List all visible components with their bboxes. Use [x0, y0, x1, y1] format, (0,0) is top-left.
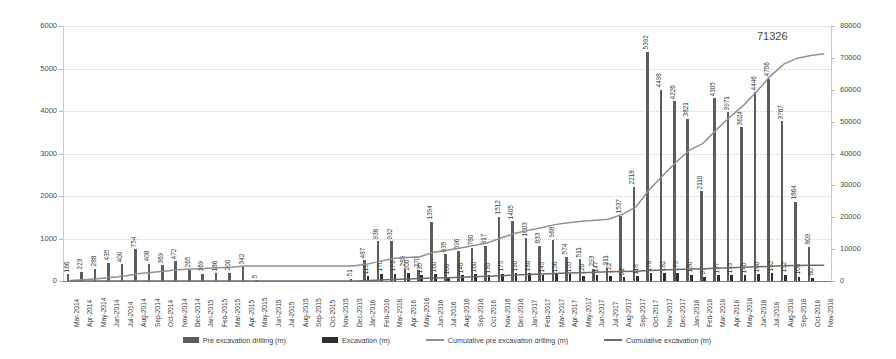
- x-axis-tick-label: Jan-2017: [531, 300, 538, 328]
- y-axis-left-tick-label: 4000: [40, 107, 57, 115]
- y-axis-right-tickmark: [831, 281, 835, 282]
- x-axis-tick-label: Jul-2017: [612, 302, 619, 327]
- x-axis-tick-label: Dec-2015: [356, 298, 363, 327]
- y-axis-left-tickmark: [59, 239, 63, 240]
- x-axis-tick-label: Apr-2016: [410, 300, 417, 327]
- y-axis-right-tick-label: 10000: [840, 245, 861, 253]
- y-axis-right-tickmark: [831, 122, 835, 123]
- line-series-group: [63, 26, 831, 281]
- x-axis-tick-label: Sep-2015: [315, 298, 322, 327]
- line-cumulative-excavation: [70, 265, 825, 281]
- x-axis-tick-label: Feb-2018: [706, 299, 713, 327]
- x-axis-tick-label: Oct-2018: [814, 300, 821, 327]
- x-axis-tick-label: Dec-2017: [679, 298, 686, 327]
- y-axis-left-tickmark: [59, 26, 63, 27]
- x-axis-tick-label: Jun-2018: [760, 300, 767, 328]
- x-axis-tick-label: Jan-2015: [207, 300, 214, 328]
- x-axis-tick-label: Aug-2016: [463, 298, 470, 327]
- y-axis-left-tick-label: 3000: [40, 150, 57, 158]
- y-axis-right-tick-label: 0: [840, 277, 844, 285]
- legend-line-swatch-icon: [426, 339, 444, 341]
- x-axis-tick-label: Sep-2018: [800, 298, 807, 327]
- y-axis-right-tickmark: [831, 90, 835, 91]
- legend-label: Pre excavation drilling (m): [203, 336, 286, 345]
- x-axis-tick-label: Mar-2017: [558, 299, 565, 327]
- x-axis-tick-label: Mar-2014: [73, 299, 80, 327]
- legend-item[interactable]: Cumulative excavation (m): [604, 336, 711, 345]
- legend-item[interactable]: Cumulative pre excavation drilling (m): [426, 336, 568, 345]
- y-axis-left-tickmark: [59, 196, 63, 197]
- y-axis-left-tick-label: 6000: [40, 22, 57, 30]
- x-axis-tick-label: Aug-2018: [787, 298, 794, 327]
- x-axis-tick-label: Jun-2017: [598, 300, 605, 328]
- x-axis-tick-label: May-2017: [585, 298, 592, 327]
- y-axis-right-tick-label: 60000: [840, 86, 861, 94]
- x-axis-tick-label: Feb-2016: [383, 299, 390, 327]
- chart-legend: Pre excavation drilling (m)Excavation (m…: [63, 333, 831, 347]
- y-axis-left-tick-label: 2000: [40, 192, 57, 200]
- line-cumulative-pre-excavation-drilling: [70, 54, 825, 281]
- y-axis-left-tickmark: [59, 154, 63, 155]
- legend-label: Cumulative pre excavation drilling (m): [448, 336, 568, 345]
- legend-item[interactable]: Excavation (m): [322, 336, 390, 345]
- x-axis-tick-label: Aug-2015: [302, 298, 309, 327]
- y-axis-right-tick-label: 40000: [840, 150, 861, 158]
- x-axis-tick-label: Apr-2018: [733, 300, 740, 327]
- x-axis-tick-label: Sep-2017: [639, 298, 646, 327]
- y-axis-left-tickmark: [59, 69, 63, 70]
- cumulative-total-annotation: 71326: [757, 30, 788, 42]
- y-axis-right-tick-label: 50000: [840, 118, 861, 126]
- x-axis-tick-label: Dec-2014: [194, 298, 201, 327]
- x-axis-tick-label: Apr-2017: [571, 300, 578, 327]
- x-axis-tick-label: May-2018: [746, 298, 753, 327]
- y-axis-right-tickmark: [831, 249, 835, 250]
- y-axis-left-tick-label: 0: [53, 277, 57, 285]
- x-axis-tick-label: Jan-2018: [693, 300, 700, 328]
- legend-bar-swatch-icon: [322, 337, 338, 343]
- x-axis-tick-label: Jun-2014: [113, 300, 120, 328]
- x-axis-tick-label: Mar-2015: [234, 299, 241, 327]
- axis-baseline: [63, 281, 831, 282]
- legend-label: Excavation (m): [342, 336, 390, 345]
- y-axis-right-tickmark: [831, 58, 835, 59]
- y-axis-left-tickmark: [59, 111, 63, 112]
- x-axis-tick-label: Mar-2016: [396, 299, 403, 327]
- x-axis-tick-label: Apr-2015: [248, 300, 255, 327]
- x-axis-tick-label: Jul-2014: [127, 302, 134, 327]
- x-axis-tick-label: Jul-2016: [450, 302, 457, 327]
- y-axis-right-tickmark: [831, 26, 835, 27]
- y-axis-right-tick-label: 20000: [840, 213, 861, 221]
- y-axis-right-tick-label: 80000: [840, 22, 861, 30]
- y-axis-left-tick-label: 1000: [40, 235, 57, 243]
- y-axis-right-tickmark: [831, 185, 835, 186]
- x-axis-tick-label: Jul-2015: [288, 302, 295, 327]
- x-axis-tick-label: Nov-2018: [827, 298, 834, 327]
- x-axis-tick-label: Sep-2016: [477, 298, 484, 327]
- chart-root: 1662232884354007544083694722651691862003…: [0, 0, 896, 359]
- x-axis-tick-label: Nov-2014: [181, 298, 188, 327]
- x-axis-tick-label: Oct-2015: [329, 300, 336, 327]
- y-axis-right-tickmark: [831, 217, 835, 218]
- x-axis-tick-label: Oct-2014: [167, 300, 174, 327]
- legend-line-swatch-icon: [604, 339, 622, 341]
- legend-item[interactable]: Pre excavation drilling (m): [183, 336, 286, 345]
- x-axis-tick-label: May-2014: [100, 298, 107, 327]
- x-axis-tick-label: Jul-2018: [773, 302, 780, 327]
- x-axis-tick-label: Nov-2015: [342, 298, 349, 327]
- x-axis-tick-label: May-2016: [423, 298, 430, 327]
- x-axis-tick-label: Sep-2014: [154, 298, 161, 327]
- legend-bar-swatch-icon: [183, 337, 199, 343]
- x-axis-tick-label: Jun-2016: [437, 300, 444, 328]
- x-axis-tick-label: Oct-2017: [652, 300, 659, 327]
- x-axis-tick-label: May-2015: [261, 298, 268, 327]
- y-axis-right-tick-label: 30000: [840, 181, 861, 189]
- legend-label: Cumulative excavation (m): [626, 336, 711, 345]
- x-axis-tick-label: Nov-2016: [504, 298, 511, 327]
- x-axis-tick-label: Feb-2015: [221, 299, 228, 327]
- y-axis-right-tick-label: 70000: [840, 54, 861, 62]
- y-axis-right-tickmark: [831, 154, 835, 155]
- x-axis-tick-label: Oct-2016: [490, 300, 497, 327]
- x-axis-tick-label: Jun-2015: [275, 300, 282, 328]
- x-axis-tick-label: Nov-2017: [666, 298, 673, 327]
- x-axis-tick-label: Mar-2018: [719, 299, 726, 327]
